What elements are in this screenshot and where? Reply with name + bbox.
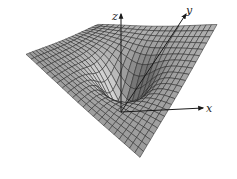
y-axis-label: y bbox=[185, 4, 193, 17]
z-axis-label: z bbox=[111, 10, 118, 23]
x-axis-label: x bbox=[206, 102, 213, 115]
surface-plot: z y x bbox=[0, 0, 237, 179]
